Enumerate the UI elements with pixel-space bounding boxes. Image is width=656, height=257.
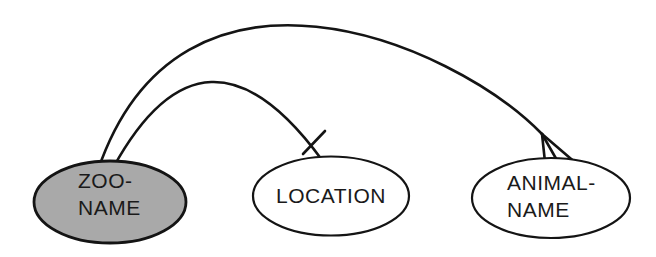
location-label: LOCATION	[276, 184, 386, 207]
animal-name-label-line1: ANIMAL-	[507, 171, 596, 194]
edge-zoo-to-animal-name	[98, 25, 542, 170]
edge-group	[98, 25, 577, 170]
zoo-name-label-line2: NAME	[78, 196, 141, 219]
diagram-canvas: ZOO- NAME LOCATION ANIMAL- NAME	[0, 0, 656, 257]
animal-name-label-line2: NAME	[507, 198, 570, 221]
zoo-name-label-line1: ZOO-	[78, 169, 133, 192]
node-animal-name: ANIMAL- NAME	[472, 158, 630, 238]
node-location: LOCATION	[253, 157, 409, 236]
dependency-diagram: ZOO- NAME LOCATION ANIMAL- NAME	[0, 0, 656, 257]
edge-zoo-to-location	[113, 82, 322, 168]
node-zoo-name: ZOO- NAME	[34, 161, 186, 243]
